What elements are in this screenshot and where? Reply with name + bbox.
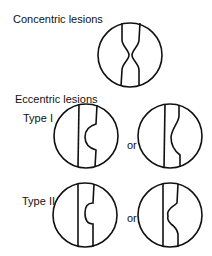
type1-lesion-figure-b	[138, 104, 202, 168]
type2-lesion-figure-b	[138, 183, 202, 247]
type2-lesion-figure-a	[53, 183, 117, 247]
concentric-lesion-figure	[98, 23, 162, 87]
lesion-diagram	[0, 0, 212, 256]
type1-lesion-figure-a	[54, 104, 118, 168]
